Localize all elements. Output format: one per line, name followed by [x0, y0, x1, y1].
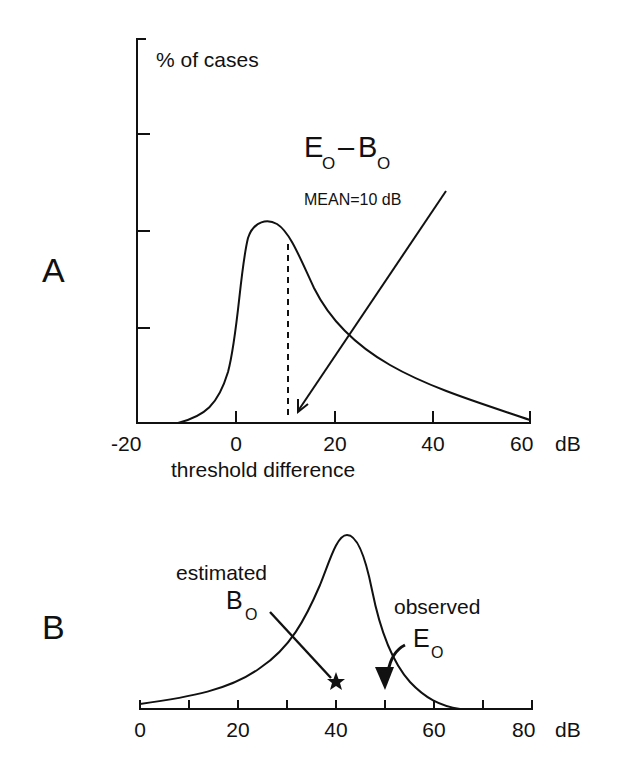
estimated-bo-arrow	[270, 612, 331, 678]
figure: A % of cases -20 0 20 40 60 dB threshold…	[0, 0, 628, 761]
svg-text:20: 20	[323, 432, 346, 455]
panel-b: B 0 20 40 60 80 dB	[42, 535, 581, 741]
svg-text:O: O	[322, 154, 335, 173]
svg-text:60: 60	[422, 718, 445, 741]
panel-a-y-axis	[137, 39, 150, 423]
svg-text:E: E	[304, 131, 323, 163]
svg-text:80: 80	[512, 718, 535, 741]
svg-text:O: O	[245, 606, 257, 623]
triangle-down-icon	[375, 667, 394, 690]
panel-a-x-label: threshold difference	[171, 458, 355, 481]
svg-text:dB: dB	[555, 432, 581, 455]
svg-text:40: 40	[421, 432, 444, 455]
panel-a-letter: A	[42, 251, 65, 289]
svg-text:0: 0	[134, 718, 146, 741]
mean-label: MEAN=10 dB	[304, 191, 401, 208]
panel-a: A % of cases -20 0 20 40 60 dB threshold…	[42, 39, 581, 481]
panel-a-annotation: E O – B O MEAN=10 dB	[304, 131, 401, 208]
svg-text:0: 0	[230, 432, 242, 455]
svg-text:O: O	[377, 154, 390, 173]
svg-text:E: E	[413, 624, 430, 652]
svg-text:O: O	[431, 644, 443, 661]
svg-text:B: B	[226, 586, 243, 614]
svg-text:-20: -20	[111, 432, 141, 455]
svg-text:60: 60	[510, 432, 533, 455]
panel-b-annotations: estimated B O observed E O	[176, 561, 480, 661]
panel-b-x-tick-labels: 0 20 40 60 80 dB	[134, 718, 581, 741]
estimated-label: estimated	[176, 561, 267, 584]
panel-b-x-axis	[139, 700, 533, 709]
svg-text:40: 40	[324, 718, 347, 741]
panel-a-y-label: % of cases	[156, 48, 259, 71]
star-icon	[327, 672, 345, 690]
svg-text:–: –	[338, 131, 355, 163]
svg-text:B: B	[358, 131, 377, 163]
observed-label: observed	[394, 595, 480, 618]
panel-a-x-tick-labels: -20 0 20 40 60 dB	[111, 432, 581, 455]
panel-a-curve	[178, 221, 530, 423]
svg-text:20: 20	[226, 718, 249, 741]
panel-b-letter: B	[42, 608, 65, 646]
svg-text:dB: dB	[555, 718, 581, 741]
panel-a-mean-arrow	[298, 191, 446, 412]
